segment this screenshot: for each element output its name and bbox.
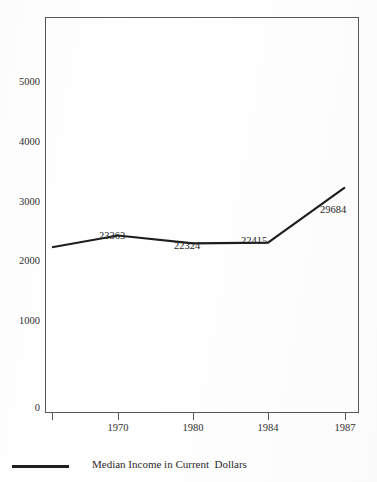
data-label-1984: 22415 bbox=[241, 236, 267, 247]
series-line-median-income bbox=[52, 187, 345, 247]
data-label-1987: 29684 bbox=[320, 205, 346, 216]
data-label-1970: 23363 bbox=[99, 231, 125, 242]
data-label-1980: 22324 bbox=[174, 241, 200, 252]
